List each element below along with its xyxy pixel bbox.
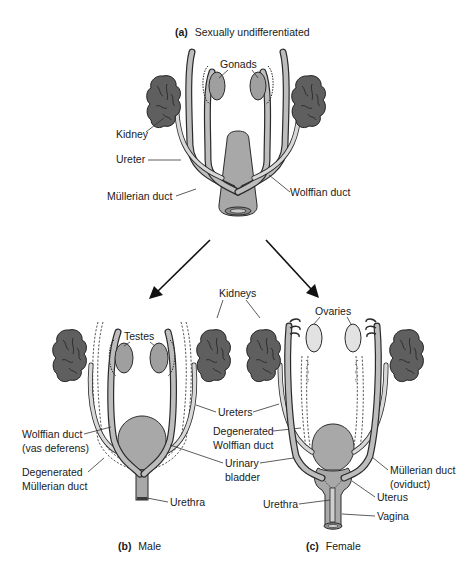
label-urethra-b: Urethra [170,496,205,508]
kidney-left-b [53,330,87,382]
urinary-bladder-female [312,424,354,470]
kidney-left-a [147,76,181,128]
gonad-right [250,72,266,100]
panel-b: Testes Wolffian duct (vas deferens) Dege… [22,322,230,552]
label-degenerated-mullerian-2: Müllerian duct [22,480,87,492]
label-kidneys: Kidneys [219,287,256,299]
label-mullerian-duct-a: Müllerian duct [107,190,172,202]
label-urethra-c: Urethra [263,498,298,510]
label-wolffian-duct-b-2: (vas deferens) [22,442,89,454]
ovary-right [345,324,361,352]
label-gonads: Gonads [220,58,257,70]
label-ovaries: Ovaries [315,305,351,317]
arrow-to-male [157,240,210,292]
ovary-left [306,324,322,352]
panel-c: Ovaries Müllerian duct (oviduct) Uterus … [247,305,456,552]
kidney-right-c [390,330,424,382]
gonad-left [209,72,225,100]
label-testes: Testes [124,330,154,342]
panel-c-title: (c) Female [306,540,361,552]
label-ureter: Ureter [116,153,146,165]
urogenital-sinus [219,131,257,216]
label-degenerated-wolffian-2: Wolffian duct [213,439,273,451]
label-uterus: Uterus [377,491,408,503]
kidney-right-a [292,76,326,128]
panel-b-title: (b) Male [118,540,161,552]
label-wolffian-duct-a: Wolffian duct [290,186,350,198]
panel-a-title: (a) Sexually undifferentiated [175,26,310,38]
label-kidney: Kidney [116,128,149,140]
testis-left [115,343,133,373]
urethra-female [330,488,335,522]
label-urinary-bladder-2: bladder [225,471,261,483]
label-ureters: Ureters [218,406,252,418]
label-mullerian-duct-c-2: (oviduct) [390,478,430,490]
label-vagina: Vagina [377,510,409,522]
panel-a: (a) Sexually undifferentiated [107,26,350,216]
arrow-to-female [266,240,312,290]
kidney-right-b [197,330,231,382]
label-mullerian-duct-c-1: Müllerian duct [390,464,455,476]
label-degenerated-wolffian-1: Degenerated [213,425,274,437]
testis-right [150,343,168,373]
reproductive-tract-differentiation-diagram: (a) Sexually undifferentiated [0,0,476,562]
label-wolffian-duct-b-1: Wolffian duct [22,428,82,440]
kidney-left-c [247,330,281,382]
label-urinary-bladder-1: Urinary [225,457,260,469]
label-degenerated-mullerian-1: Degenerated [22,466,83,478]
